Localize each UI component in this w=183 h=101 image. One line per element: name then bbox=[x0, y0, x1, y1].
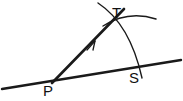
geometry-diagram: P T S bbox=[0, 0, 183, 101]
vertex-label-t: T bbox=[112, 4, 121, 21]
vertex-label-s: S bbox=[129, 69, 139, 86]
vertex-label-p: P bbox=[43, 82, 53, 99]
geometry-canvas: P T S bbox=[0, 0, 183, 101]
base-line-through-p-and-s bbox=[2, 60, 181, 89]
